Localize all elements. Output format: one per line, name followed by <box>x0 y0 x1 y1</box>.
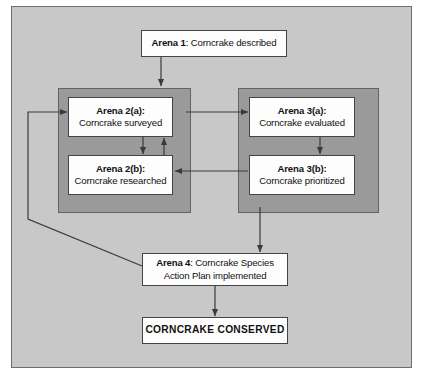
arena-4-line-1-bold: Arena 4 <box>156 257 190 268</box>
arena-3a-node[interactable]: Arena 3(a): Corncrake evaluated <box>249 97 355 137</box>
arena-3b-line-2: Corncrake prioritized <box>259 175 344 187</box>
arena-2a-line-1: Arena 2(a): <box>96 105 144 117</box>
arena-1-label-bold: Arena 1 <box>152 37 186 48</box>
arena-2a-line-1-bold: Arena 2(a): <box>96 105 144 116</box>
arena-1-label: Arena 1: Corncrake described <box>152 37 277 49</box>
arena-4-line-1: Arena 4: Corncrake Species <box>156 257 274 269</box>
arena-3a-line-1: Arena 3(a): <box>278 105 326 117</box>
corncrake-conserved-label: CORNCRAKE CONSERVED <box>145 324 284 336</box>
arena-1-label-rest: : Corncrake described <box>186 37 277 48</box>
arena-3b-node[interactable]: Arena 3(b): Corncrake prioritized <box>249 155 355 195</box>
diagram-canvas: Arena 1: Corncrake described Arena 2(a):… <box>0 0 427 383</box>
arena-2b-node[interactable]: Arena 2(b): Corncrake researched <box>68 155 173 195</box>
arena-3b-line-1: Arena 3(b): <box>278 163 327 175</box>
arena-1-node[interactable]: Arena 1: Corncrake described <box>141 30 287 57</box>
arena-2b-line-1-bold: Arena 2(b): <box>96 163 145 174</box>
arena-4-node[interactable]: Arena 4: Corncrake Species Action Plan i… <box>142 253 288 286</box>
arena-4-line-1-rest: : Corncrake Species <box>190 257 274 268</box>
arena-3b-line-1-bold: Arena 3(b): <box>278 163 327 174</box>
arena-2a-line-2: Corncrake surveyed <box>79 117 162 129</box>
corncrake-conserved-node[interactable]: CORNCRAKE CONSERVED <box>142 317 288 344</box>
arena-2b-line-1: Arena 2(b): <box>96 163 145 175</box>
arena-3a-line-2: Corncrake evaluated <box>259 117 345 129</box>
arena-4-line-2: Action Plan implemented <box>164 270 267 282</box>
arena-3a-line-1-bold: Arena 3(a): <box>278 105 326 116</box>
arena-2a-node[interactable]: Arena 2(a): Corncrake surveyed <box>68 97 173 137</box>
arena-2b-line-2: Corncrake researched <box>75 175 167 187</box>
